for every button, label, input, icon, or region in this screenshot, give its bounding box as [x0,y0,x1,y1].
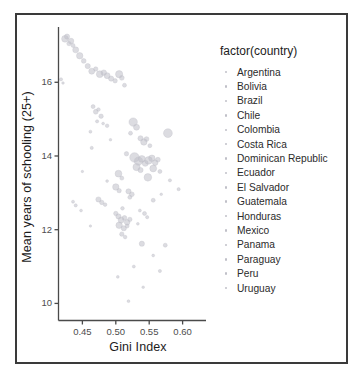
legend-item[interactable]: Ecuador [219,166,347,180]
data-point [168,179,171,182]
legend-key-icon [219,71,233,74]
legend-key-icon [219,143,233,146]
data-point [164,129,173,138]
data-point [122,83,126,87]
data-point [103,203,107,207]
legend-item-label: Brazil [237,95,262,106]
legend-dot-icon [225,244,228,247]
data-point [148,144,152,148]
legend-dot-icon [225,114,228,117]
legend-item-label: Bolivia [237,81,267,92]
legend-dot-icon [225,272,228,275]
legend-item-label: Ecuador [237,167,275,178]
axes-layer [55,27,207,325]
data-point [117,188,121,192]
legend-item[interactable]: Argentina [219,65,347,79]
legend-item-label: Guatemala [237,196,287,207]
legend-item[interactable]: Uruguay [219,281,347,295]
legend-item[interactable]: Chile [219,108,347,122]
data-point [120,176,124,180]
data-point [155,157,160,162]
legend-key-icon [219,114,233,117]
x-axis-title: Gini Index [48,340,228,354]
legend-dot-icon [225,215,228,218]
legend-item[interactable]: Brazil [219,94,347,108]
legend-dot-icon [225,129,228,132]
data-point [152,254,155,257]
data-point [129,131,133,135]
legend-item-label: Argentina [237,67,281,78]
legend-key-icon [219,129,233,132]
legend-key-icon [219,186,233,189]
data-point [146,216,149,219]
legend-key-icon [219,100,233,103]
data-point [163,243,167,247]
data-point [143,211,147,215]
data-point [177,188,180,191]
data-point [95,120,98,123]
data-point [81,170,83,172]
data-point [102,122,105,125]
data-point [144,174,152,182]
legend-item-label: Peru [237,268,259,279]
legend-key-icon [219,200,233,203]
data-point [120,232,124,236]
legend-key-icon [219,172,233,175]
data-point [99,114,103,118]
legend-key-icon [219,258,233,261]
legend-item[interactable]: Dominican Republic [219,151,347,165]
data-point [151,198,155,202]
data-point [71,43,75,47]
legend-item[interactable]: Panama [219,238,347,252]
legend-item[interactable]: El Salvador [219,180,347,194]
data-point [90,146,93,149]
data-point [68,38,74,44]
data-point [105,124,109,128]
legend-key-icon [219,244,233,247]
legend-item-label: Uruguay [237,283,276,294]
legend-item[interactable]: Honduras [219,209,347,223]
legend-item-label: Chile [237,110,260,121]
legend-item[interactable]: Bolivia [219,79,347,93]
legend-item[interactable]: Costa Rica [219,137,347,151]
legend-key-icon [219,229,233,232]
legend-item[interactable]: Peru [219,266,347,280]
legend-key-icon [219,272,233,275]
data-point [134,124,140,130]
data-point [74,204,77,207]
legend-item-label: Colombia [237,124,280,135]
x-tick-label: 0.50 [101,326,131,337]
data-point [97,108,101,112]
legend-item-label: Panama [237,239,275,250]
legend-dot-icon [225,200,228,203]
data-point [119,75,124,80]
data-point [80,209,83,212]
legend-item-label: Mexico [237,225,269,236]
data-point [125,224,129,228]
data-point [128,195,132,199]
data-point [81,59,86,64]
data-point [91,105,95,109]
data-point [59,78,62,81]
legend-dot-icon [225,85,228,88]
data-point [116,275,119,278]
legend-dot-icon [225,258,228,261]
data-point [109,138,112,141]
data-point [89,130,92,133]
data-point [72,200,75,203]
data-point [115,170,122,177]
legend-key-icon [219,287,233,290]
data-point [142,286,145,289]
data-point [121,207,125,211]
legend-items: ArgentinaBoliviaBrazilChileColombiaCosta… [219,65,347,295]
legend-dot-icon [225,143,228,146]
legend-item[interactable]: Mexico [219,223,347,237]
data-point [144,137,149,142]
legend-item[interactable]: Paraguay [219,252,347,266]
data-point [136,222,139,225]
data-point [158,169,162,173]
legend-item[interactable]: Colombia [219,123,347,137]
legend-item[interactable]: Guatemala [219,195,347,209]
legend-title: factor(country) [220,44,347,58]
data-point [106,180,109,183]
